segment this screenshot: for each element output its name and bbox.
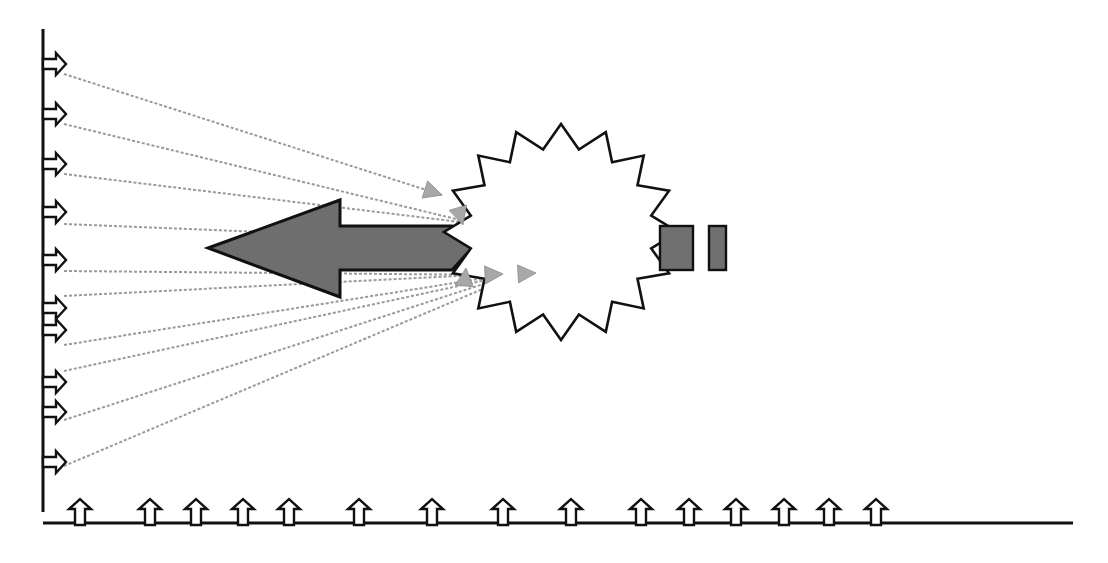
dotted-ray xyxy=(64,74,442,195)
right-arrow-icon xyxy=(43,451,66,473)
right-arrow-icon xyxy=(43,401,66,423)
right-arrow-icon xyxy=(43,53,66,75)
dark-blocks xyxy=(660,226,726,270)
starburst-icon xyxy=(444,124,678,340)
up-arrow-icon xyxy=(773,499,795,525)
up-arrow-icon xyxy=(69,499,91,525)
up-arrow-icon xyxy=(560,499,582,525)
starburst-shape xyxy=(444,124,678,340)
up-arrow-icon xyxy=(630,499,652,525)
right-arrow-icon xyxy=(43,371,66,393)
right-arrow-icon xyxy=(43,103,66,125)
dotted-ray xyxy=(64,278,502,420)
up-arrow-icon xyxy=(421,499,443,525)
up-arrow-icon xyxy=(492,499,514,525)
up-arrow-icon xyxy=(348,499,370,525)
dotted-ray xyxy=(64,280,504,466)
up-arrow-icon xyxy=(678,499,700,525)
up-arrow-icon xyxy=(139,499,161,525)
right-arrow-icon xyxy=(43,201,66,223)
large-left-arrow-icon xyxy=(208,200,472,297)
dotted-ray xyxy=(64,277,500,371)
diagram-canvas xyxy=(0,0,1108,563)
dark-block xyxy=(660,226,693,270)
bottom-edge-up-arrows xyxy=(69,499,887,525)
up-arrow-icon xyxy=(232,499,254,525)
up-arrow-icon xyxy=(725,499,747,525)
right-arrow-icon xyxy=(43,297,66,319)
ray-arrowhead-icon xyxy=(422,181,442,198)
up-arrow-icon xyxy=(278,499,300,525)
left-edge-right-arrows xyxy=(43,53,66,473)
left-arrow-icon xyxy=(208,200,472,297)
dotted-ray xyxy=(64,124,460,220)
right-arrow-icon xyxy=(43,249,66,271)
right-arrow-icon xyxy=(43,319,66,341)
dark-block xyxy=(709,226,726,270)
up-arrow-icon xyxy=(818,499,840,525)
up-arrow-icon xyxy=(865,499,887,525)
right-arrow-icon xyxy=(43,153,66,175)
dotted-ray xyxy=(64,174,460,222)
up-arrow-icon xyxy=(185,499,207,525)
